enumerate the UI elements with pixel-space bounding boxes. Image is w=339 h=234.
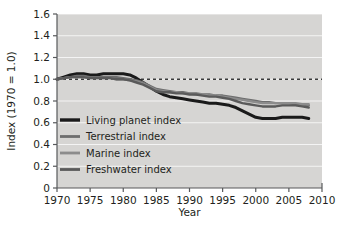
y-axis-tick-label-8: 1.6 [33,8,50,20]
line-chart: 00.20.40.60.81.01.21.41.6197019751980198… [0,0,339,234]
x-axis-tick-label-0: 1970 [44,194,71,206]
x-axis-tick-label-6: 2000 [242,194,269,206]
legend-label-0: Living planet index [86,115,181,126]
x-axis-tick-label-5: 1995 [209,194,236,206]
y-axis-tick-label-7: 1.4 [33,29,50,41]
x-axis-tick-label-2: 1980 [110,194,137,206]
y-axis-tick-label-3: 0.6 [33,116,50,128]
y-axis-title: Index (1970 = 1.0) [5,51,17,150]
y-axis-tick-label-5: 1.0 [33,73,50,85]
legend-label-3: Freshwater index [86,164,172,175]
y-axis-tick-label-4: 0.8 [33,95,50,107]
y-axis-tick-label-6: 1.2 [33,51,50,63]
x-axis-tick-label-4: 1990 [176,194,203,206]
chart-figure: 00.20.40.60.81.01.21.41.6197019751980198… [0,0,339,234]
x-axis-tick-label-7: 2005 [276,194,303,206]
x-axis-tick-label-3: 1985 [143,194,170,206]
x-axis-title: Year [177,206,201,218]
x-axis-tick-label-8: 2010 [309,194,336,206]
legend-label-1: Terrestrial index [85,131,166,142]
y-axis-tick-label-0: 0 [43,182,50,194]
y-axis-tick-label-2: 0.4 [33,138,50,150]
x-axis-tick-label-1: 1975 [77,194,104,206]
y-axis-tick-label-1: 0.2 [33,160,50,172]
legend-label-2: Marine index [86,148,151,159]
